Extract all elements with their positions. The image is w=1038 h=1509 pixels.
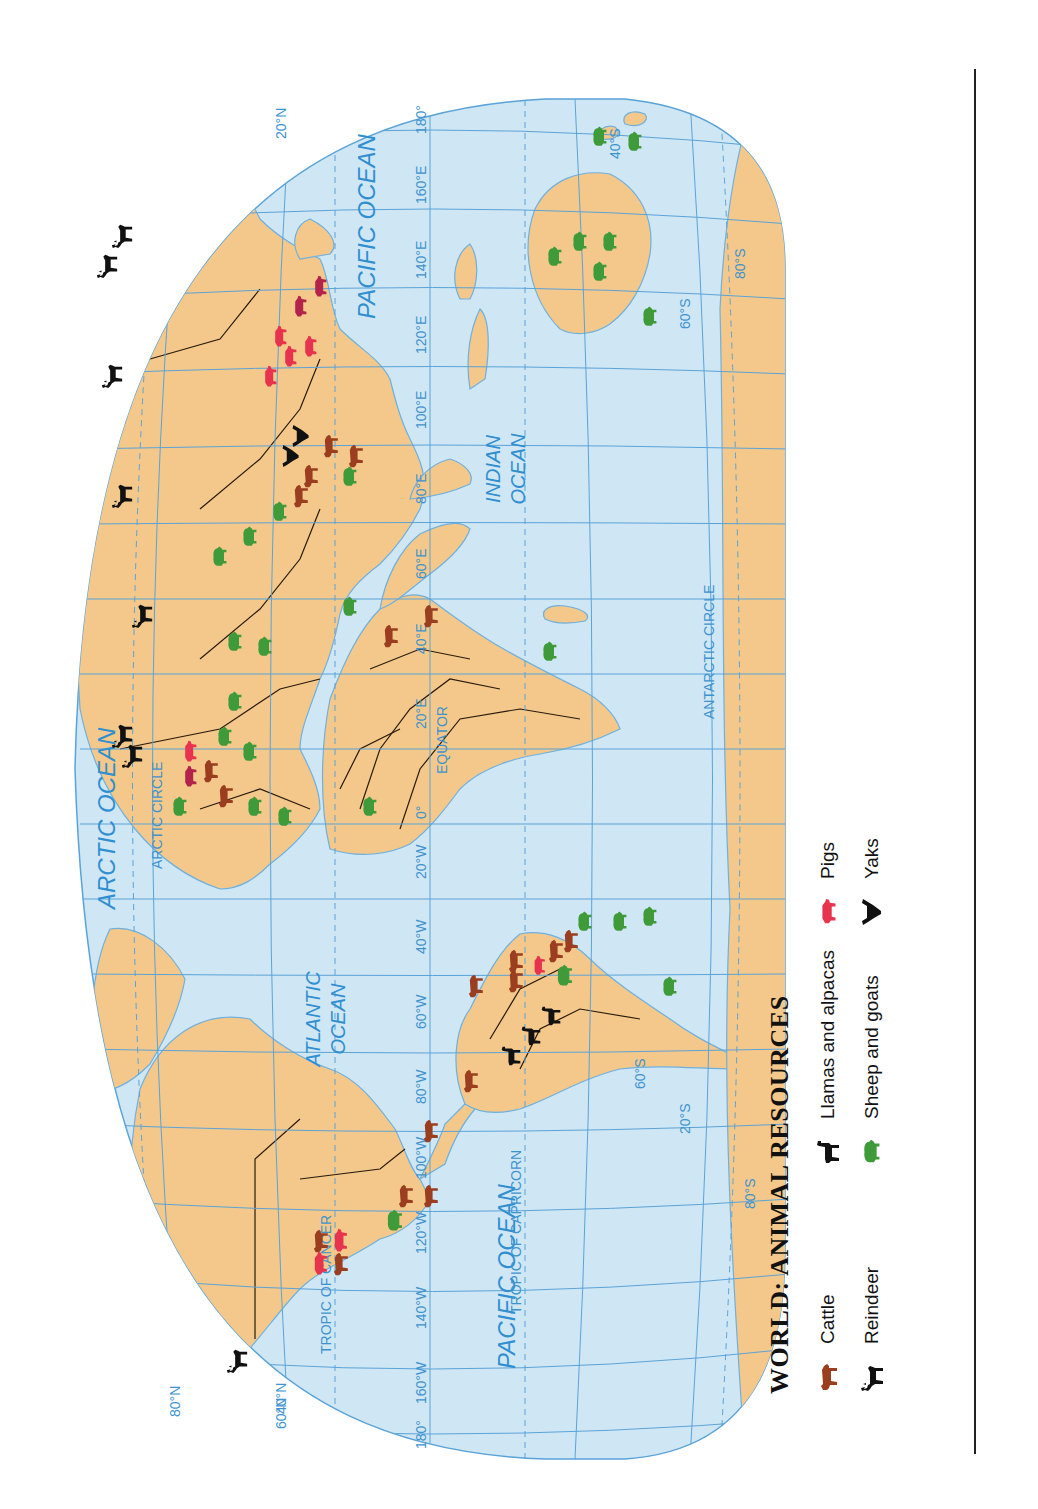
page: ARCTIC OCEAN ATLANTIC OCEAN PACIFIC OCEA… <box>0 0 1038 1509</box>
reindeer-icon <box>97 255 117 278</box>
reindeer-icon <box>858 1360 886 1394</box>
legend-item-llamas: Llamas and alpacas <box>813 929 843 1169</box>
legend-label: Yaks <box>861 838 883 879</box>
cattle-icon <box>814 1360 842 1394</box>
legend-item-sheep-goats: Sheep and goats <box>857 929 887 1169</box>
svg-text:180°: 180° <box>413 105 429 134</box>
svg-text:60°E: 60°E <box>413 548 429 579</box>
legend-title: WORLD: ANIMAL RESOURCES <box>765 634 795 1394</box>
legend-label: Pigs <box>817 842 839 879</box>
svg-text:160°E: 160°E <box>413 166 429 204</box>
horizontal-rule <box>974 69 976 1454</box>
svg-text:0°: 0° <box>413 806 429 819</box>
label-atlantic-ocean: ATLANTIC <box>302 971 324 1068</box>
svg-text:120°E: 120°E <box>413 316 429 354</box>
svg-text:120°W: 120°W <box>413 1211 429 1254</box>
svg-text:80°S: 80°S <box>742 1178 758 1209</box>
label-indian-ocean-2: OCEAN <box>507 433 529 505</box>
legend-item-reindeer: Reindeer <box>857 1169 887 1394</box>
sheep-icon <box>858 1135 886 1169</box>
label-arctic-circle: ARCTIC CIRCLE <box>149 762 165 869</box>
pig-icon <box>814 895 842 929</box>
svg-text:140°E: 140°E <box>413 241 429 279</box>
legend-label: Llamas and alpacas <box>817 950 839 1119</box>
reindeer-icon <box>227 1350 247 1373</box>
svg-text:40°W: 40°W <box>413 919 429 954</box>
legend: WORLD: ANIMAL RESOURCES Cattle Llamas an… <box>765 634 887 1394</box>
svg-text:60°W: 60°W <box>413 994 429 1029</box>
svg-text:20°S: 20°S <box>677 1103 693 1134</box>
svg-text:40°N: 40°N <box>273 1383 289 1414</box>
legend-item-pigs: Pigs <box>813 689 843 929</box>
svg-text:40°S: 40°S <box>607 128 623 159</box>
svg-text:20°N: 20°N <box>273 108 289 139</box>
reindeer-icon <box>112 225 132 248</box>
label-arctic-ocean: ARCTIC OCEAN <box>93 727 120 911</box>
label-antarctic-circle: ANTARCTIC CIRCLE <box>701 585 717 719</box>
yak-icon <box>858 895 886 929</box>
label-indian-ocean: INDIAN <box>482 435 504 503</box>
svg-text:40°E: 40°E <box>413 623 429 654</box>
svg-text:80°S: 80°S <box>732 248 748 279</box>
svg-text:60°S: 60°S <box>632 1058 648 1089</box>
legend-label: Sheep and goats <box>861 975 883 1119</box>
svg-text:80°N: 80°N <box>167 1386 183 1417</box>
label-pacific-ocean-east: PACIFIC OCEAN <box>353 133 380 319</box>
svg-text:100°E: 100°E <box>413 391 429 429</box>
svg-text:180°: 180° <box>413 1420 429 1449</box>
legend-item-yaks: Yaks <box>857 689 887 929</box>
legend-label: Cattle <box>817 1294 839 1344</box>
svg-text:160°W: 160°W <box>413 1361 429 1404</box>
svg-text:80°W: 80°W <box>413 1069 429 1104</box>
reindeer-icon <box>102 365 122 388</box>
rotated-map-sheet: ARCTIC OCEAN ATLANTIC OCEAN PACIFIC OCEA… <box>0 0 1038 1509</box>
llama-icon <box>814 1135 842 1169</box>
label-tropic-capricorn: TROPIC OF CAPRICORN <box>508 1150 524 1314</box>
label-atlantic-ocean-2: OCEAN <box>327 983 349 1055</box>
svg-text:140°W: 140°W <box>413 1286 429 1329</box>
legend-item-cattle: Cattle <box>813 1169 843 1394</box>
svg-text:100°W: 100°W <box>413 1136 429 1179</box>
svg-text:80°E: 80°E <box>413 473 429 504</box>
svg-text:60°S: 60°S <box>677 298 693 329</box>
legend-items: Cattle Llamas and alpacas Pigs Reindeer … <box>813 634 887 1394</box>
label-equator: EQUATOR <box>434 706 450 774</box>
legend-label: Reindeer <box>861 1267 883 1344</box>
svg-text:20°E: 20°E <box>413 698 429 729</box>
svg-text:20°W: 20°W <box>413 844 429 879</box>
